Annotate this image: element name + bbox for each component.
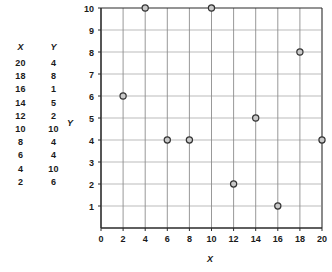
x-tick-label: 4 xyxy=(143,234,148,244)
y-tick-label: 2 xyxy=(89,180,94,190)
x-tick-label: 6 xyxy=(165,234,170,244)
y-tick-label: 4 xyxy=(89,136,94,146)
data-points xyxy=(120,5,325,209)
y-tick-label: 3 xyxy=(89,158,94,168)
x-tick-label: 18 xyxy=(295,234,305,244)
y-tick-label: 5 xyxy=(89,114,94,124)
x-tick-label: 2 xyxy=(121,234,126,244)
y-tick-label: 1 xyxy=(89,202,94,212)
data-point xyxy=(253,115,259,121)
x-tick-labels: 02468101214161820 xyxy=(98,234,327,244)
x-tick-label: 10 xyxy=(206,234,216,244)
data-point xyxy=(319,137,325,143)
x-tick-label: 14 xyxy=(251,234,261,244)
tick-marks xyxy=(98,8,322,231)
data-point xyxy=(231,181,237,187)
scatter-chart: 02468101214161820 12345678910 X Y xyxy=(0,0,332,272)
y-tick-label: 10 xyxy=(84,4,94,14)
x-tick-label: 20 xyxy=(317,234,327,244)
data-point xyxy=(186,137,192,143)
data-point xyxy=(142,5,148,11)
x-tick-label: 16 xyxy=(273,234,283,244)
x-tick-label: 8 xyxy=(187,234,192,244)
data-point xyxy=(297,49,303,55)
y-axis-title: Y xyxy=(67,118,74,128)
data-point xyxy=(208,5,214,11)
y-tick-label: 8 xyxy=(89,48,94,58)
y-tick-label: 9 xyxy=(89,26,94,36)
data-point xyxy=(120,93,126,99)
x-axis-title: X xyxy=(206,254,214,264)
y-tick-label: 7 xyxy=(89,70,94,80)
data-point xyxy=(275,203,281,209)
x-tick-label: 0 xyxy=(98,234,103,244)
x-tick-label: 12 xyxy=(229,234,239,244)
data-point xyxy=(164,137,170,143)
y-tick-label: 6 xyxy=(89,92,94,102)
y-tick-labels: 12345678910 xyxy=(84,4,94,212)
